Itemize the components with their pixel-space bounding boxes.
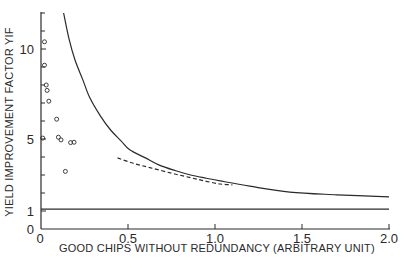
y-axis-ticks: 01510 [20,13,46,237]
yif-curve [64,13,389,197]
data-point-marker [42,40,46,44]
y-tick-label: 0 [27,222,34,237]
y-tick-label: 5 [27,132,34,147]
x-tick-label: 2.0 [380,231,398,246]
data-point-marker [59,138,63,142]
series-layer [41,13,389,209]
x-axis-title: GOOD CHIPS WITHOUT REDUNDANCY (ARBITRARY… [59,242,375,254]
plot-area: 01510 00.51.01.52.0 [20,12,399,246]
dashed-trend-line [118,158,233,185]
data-point-marker [45,88,49,92]
data-point-marker [55,117,59,121]
yield-improvement-chart: 01510 00.51.01.52.0 GOOD CHIPS WITHOUT R… [0,0,405,262]
data-point-marker [47,99,51,103]
data-point-marker [63,169,67,173]
y-tick-label: 10 [20,42,34,57]
y-axis-title: YIELD IMPROVEMENT FACTOR YIF [3,27,15,217]
y-tick-label: 1 [27,204,34,219]
x-tick-label: 0 [36,231,43,246]
